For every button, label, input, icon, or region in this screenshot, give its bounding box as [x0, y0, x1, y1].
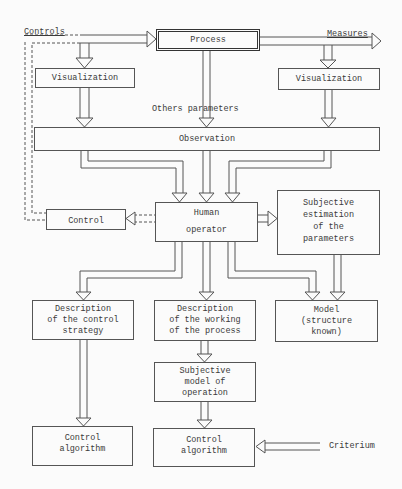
subjective-estimation-box: Subjective estimation of the parameters — [277, 190, 380, 255]
control-algorithm-left-line: Control — [65, 433, 101, 444]
desc-control-strategy-line: strategy — [63, 326, 104, 337]
others-parameters-label: Others parameters — [152, 104, 239, 114]
measures-label: Measures — [327, 29, 368, 39]
control-label: Control — [68, 216, 104, 227]
desc-control-strategy-line: of the control — [47, 315, 118, 326]
desc-working-process-line: Description — [177, 304, 233, 315]
subjective-estimation-line: of the — [313, 221, 344, 233]
subjective-model-box: Subjective model of operation — [154, 362, 256, 402]
subjective-model-line: model of — [185, 377, 226, 388]
control-algorithm-right-box: Control algorithm — [153, 428, 255, 467]
subjective-estimation-line: Subjective — [303, 197, 354, 209]
desc-control-strategy-box: Description of the control strategy — [32, 300, 134, 340]
model-line: known) — [311, 327, 342, 338]
process-box: Process — [156, 29, 260, 51]
desc-working-process-box: Description of the working of the proces… — [154, 300, 256, 341]
model-line: Model — [314, 305, 340, 316]
criterium-label: Criterium — [329, 441, 375, 451]
control-algorithm-right-line: Control — [186, 435, 222, 446]
visualization-left-label: Visualization — [52, 73, 118, 84]
model-line: (structure — [301, 316, 352, 327]
control-algorithm-left-box: Control algorithm — [32, 426, 133, 466]
controls-label: Controls — [24, 27, 65, 37]
control-algorithm-left-line: algorithm — [60, 444, 106, 455]
process-label: Process — [190, 35, 226, 46]
subjective-estimation-line: estimation — [303, 209, 354, 221]
control-algorithm-right-line: algorithm — [181, 446, 227, 457]
visualization-left-box: Visualization — [35, 68, 135, 88]
observation-box: Observation — [34, 127, 380, 151]
model-box: Model (structure known) — [275, 300, 378, 342]
desc-working-process-line: of the process — [169, 326, 240, 337]
subjective-model-line: Subjective — [179, 366, 230, 377]
observation-label: Observation — [179, 134, 235, 145]
control-box: Control — [46, 209, 126, 230]
visualization-right-label: Visualization — [296, 74, 362, 85]
human-operator-box: Human operator — [155, 202, 258, 242]
human-operator-line2: operator — [186, 225, 227, 236]
subjective-model-line: operation — [182, 388, 228, 399]
subjective-estimation-line: parameters — [303, 233, 354, 245]
desc-working-process-line: of the working — [169, 315, 240, 326]
human-operator-line1: Human — [194, 208, 220, 219]
desc-control-strategy-line: Description — [55, 304, 111, 315]
visualization-right-box: Visualization — [278, 68, 380, 90]
